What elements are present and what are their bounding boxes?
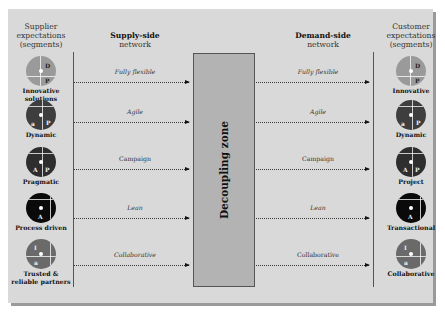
supply-flow-arrow — [74, 218, 189, 219]
segment-label: Transactional — [381, 224, 441, 232]
supply-flow-label: Agile — [95, 108, 175, 115]
demand-flow-label: Agile — [278, 108, 358, 115]
segment-disc-icon: D P — [396, 56, 426, 86]
segment-label: Process driven — [11, 224, 71, 232]
segment-label: Dynamic — [381, 131, 441, 139]
supply-flow-arrow — [74, 122, 189, 123]
supply-side-subtitle: network — [119, 40, 151, 49]
supplier-segment-trusted-partners: I a Trusted & reliable partners — [11, 239, 71, 285]
customer-segment-dynamic: a P Dynamic — [381, 100, 441, 139]
segment-disc-icon: A P — [26, 147, 56, 177]
decoupling-zone-label: Decoupling zone — [218, 121, 230, 219]
supply-flow-label: Fully flexible — [95, 68, 175, 75]
demand-flow-arrow — [256, 82, 369, 83]
supply-side-title: Supply-side — [100, 31, 170, 40]
supplier-segment-innovative: D P Innovative solutions — [11, 56, 71, 102]
customer-segment-transactional: A Transactional — [381, 193, 441, 232]
customer-segment-collaborative: I a Collaborative — [381, 239, 441, 278]
segment-disc-icon: I a — [26, 239, 56, 269]
demand-flow-arrow — [256, 218, 369, 219]
demand-flow-arrow — [256, 122, 369, 123]
segment-disc-icon: A — [26, 193, 56, 223]
demand-flow-label: Collaborative — [278, 251, 358, 258]
segment-label: Dynamic — [11, 131, 71, 139]
segment-disc-icon: a P — [26, 100, 56, 130]
decoupling-zone: Decoupling zone — [193, 53, 255, 287]
segment-disc-icon: D P — [26, 56, 56, 86]
demand-flow-arrow — [256, 169, 369, 170]
supply-flow-arrow — [74, 265, 189, 266]
segment-label: Trusted & reliable partners — [11, 270, 71, 285]
demand-flow-label: Campaign — [278, 155, 358, 162]
supply-flow-label: Campaign — [95, 155, 175, 162]
demand-flow-label: Lean — [278, 204, 358, 211]
demand-flow-arrow — [256, 265, 369, 266]
supplier-segment-process-driven: A Process driven — [11, 193, 71, 232]
supply-flow-label: Collaborative — [95, 251, 175, 258]
supplier-segment-pragmatic: A P Pragmatic — [11, 147, 71, 186]
segment-label: Project — [381, 178, 441, 186]
segment-label: Pragmatic — [11, 178, 71, 186]
segment-disc-icon: I a — [396, 239, 426, 269]
demand-side-subtitle: network — [307, 40, 339, 49]
segment-label: Collaborative — [381, 270, 441, 278]
customer-segment-innovative: D P Innovative — [381, 56, 441, 95]
customer-boundary-line — [373, 52, 374, 287]
demand-side-header: Demand-side network — [288, 31, 358, 49]
segment-label: Innovative — [381, 87, 441, 95]
supply-side-header: Supply-side network — [100, 31, 170, 49]
supply-flow-arrow — [74, 169, 189, 170]
segment-disc-icon: a P — [396, 100, 426, 130]
segment-disc-icon: A — [396, 193, 426, 223]
customer-header: Customer expectations (segments) — [380, 22, 442, 49]
supplier-header: Supplier expectations (segments) — [10, 22, 72, 49]
demand-flow-label: Fully flexible — [278, 68, 358, 75]
supplier-segment-dynamic: a P Dynamic — [11, 100, 71, 139]
supply-flow-arrow — [74, 82, 189, 83]
demand-side-title: Demand-side — [288, 31, 358, 40]
segment-disc-icon: A P — [396, 147, 426, 177]
supply-flow-label: Lean — [95, 204, 175, 211]
customer-segment-project: A P Project — [381, 147, 441, 186]
